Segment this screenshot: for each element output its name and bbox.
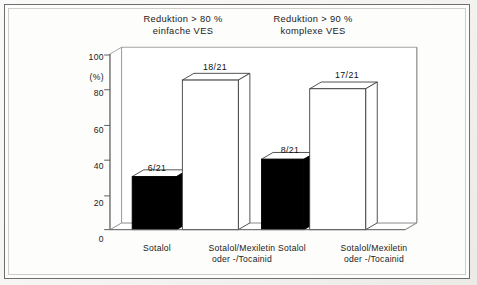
bar-4-front-face — [310, 89, 366, 230]
bar-2-kombination-einfache — [182, 73, 250, 229]
bar-1-front-face — [132, 177, 176, 230]
bar-2-side-face — [238, 73, 250, 229]
x-label-group2-kombination: Sotalol/Mexiletin oder -/Tocainid — [318, 243, 430, 264]
bar-4-kombination-komplexe — [310, 82, 378, 230]
x-label-group2-kombination-line2: oder -/Tocainid — [318, 254, 430, 265]
x-label-group2-kombination-line1: Sotalol/Mexiletin — [341, 243, 408, 253]
x-label-group1-sotalol: Sotalol — [119, 243, 195, 254]
bar-4-value-label: 17/21 — [318, 70, 376, 80]
x-label-group1-kombination-line2: oder -/Tocainid — [186, 254, 298, 265]
x-label-group1-sotalol-line1: Sotalol — [143, 243, 171, 253]
bar-4-side-face — [366, 82, 378, 230]
bar-2-value-label: 18/21 — [186, 62, 244, 72]
bar-1-sotalol-einfache — [132, 170, 188, 230]
bar-chart-plot-area — [0, 0, 466, 275]
bar-2-front-face — [182, 80, 238, 230]
plot-left-wall — [110, 47, 122, 229]
x-label-group2-sotalol-line1: Sotalol — [278, 243, 306, 253]
scanned-figure-page: Reduktion > 80 % einfache VES Reduktion … — [0, 0, 477, 285]
y-axis-ticks — [104, 55, 110, 230]
bar-3-front-face — [261, 159, 303, 229]
bar-3-sotalol-komplexe — [261, 152, 315, 229]
bar-1-value-label: 6/21 — [134, 163, 180, 173]
bar-3-value-label: 8/21 — [266, 145, 314, 155]
